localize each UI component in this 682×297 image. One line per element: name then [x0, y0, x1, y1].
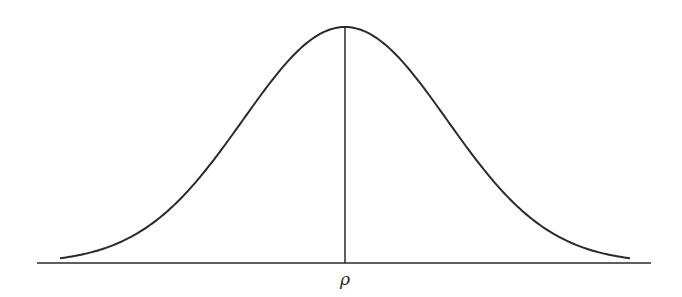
- bell-curve-diagram: ρ: [0, 0, 682, 297]
- center-label-rho: ρ: [339, 269, 350, 289]
